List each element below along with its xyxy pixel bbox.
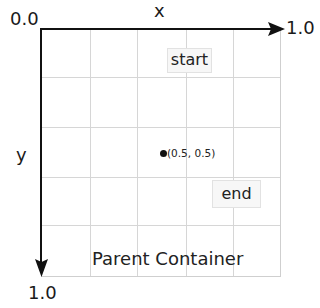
x-axis-label: x xyxy=(154,2,165,20)
center-point-dot xyxy=(160,150,167,157)
x-axis-line xyxy=(40,28,272,30)
y-axis-line xyxy=(40,28,42,262)
parent-container-label: Parent Container xyxy=(92,249,243,269)
y-axis-label: y xyxy=(16,146,27,164)
grid-line-vertical xyxy=(137,29,138,276)
grid-line-vertical xyxy=(90,29,91,276)
x-axis-arrowhead-icon xyxy=(268,21,286,37)
end-box: end xyxy=(212,180,261,208)
grid-line-horizontal xyxy=(41,127,280,128)
y-axis-end-label: 1.0 xyxy=(28,284,57,302)
y-axis-arrowhead-icon xyxy=(34,259,49,278)
center-point-label: (0.5, 0.5) xyxy=(167,147,215,159)
grid-line-vertical xyxy=(233,29,234,276)
origin-label: 0.0 xyxy=(10,10,39,28)
container-border-right xyxy=(280,29,281,277)
grid-line-horizontal xyxy=(41,77,280,78)
grid-line-horizontal xyxy=(41,225,280,226)
grid-line-horizontal xyxy=(41,177,280,178)
container-border-bottom xyxy=(41,276,281,277)
x-axis-end-label: 1.0 xyxy=(286,19,315,37)
start-box: start xyxy=(167,48,212,73)
